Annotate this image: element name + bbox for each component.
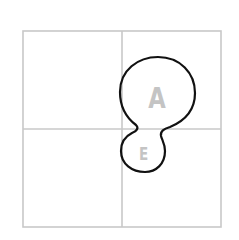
- grid: [23, 31, 221, 227]
- label-e: E: [139, 143, 148, 164]
- label-a: A: [148, 81, 166, 114]
- diagram-canvas: A E: [0, 0, 239, 240]
